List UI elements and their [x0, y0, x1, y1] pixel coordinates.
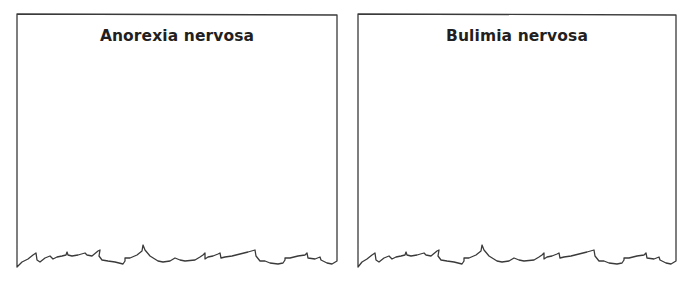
bulimia-nervosa-panel: Bulimia nervosa: [358, 0, 676, 285]
anorexia-nervosa-panel: Anorexia nervosa: [17, 0, 337, 285]
panel-title: Anorexia nervosa: [17, 27, 337, 45]
panel-title: Bulimia nervosa: [358, 27, 676, 45]
